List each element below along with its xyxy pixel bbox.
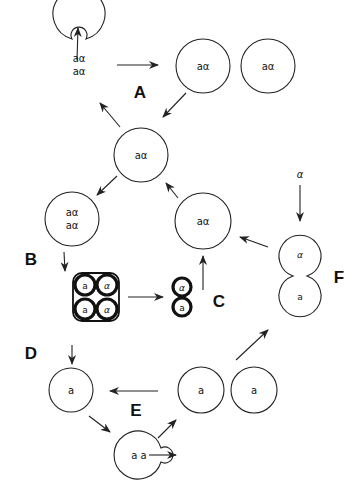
svg-text:a: a	[179, 303, 185, 313]
label-E: E	[130, 401, 141, 420]
svg-text:a: a	[198, 385, 204, 396]
svg-text:aα: aα	[262, 61, 275, 72]
diploid-premeiotic-cell: aα aα	[45, 192, 99, 246]
label-B: B	[25, 250, 37, 269]
svg-text:a: a	[297, 292, 303, 302]
svg-text:a: a	[68, 385, 74, 396]
svg-text:aα: aα	[135, 150, 148, 161]
diploid-center-cell: aα	[114, 128, 168, 182]
incoming-alpha: α	[297, 169, 304, 180]
arrow-to-mating	[236, 330, 268, 360]
label-C: C	[213, 292, 225, 311]
svg-text:a: a	[251, 385, 257, 396]
diploid-daughter-cell-1: aα	[176, 39, 230, 93]
arrow-to-premeiotic	[97, 176, 117, 195]
mating-pair: α a	[279, 235, 321, 317]
spore-pair: α a	[173, 278, 191, 316]
genotype-line1: aα	[73, 53, 86, 64]
label-D: D	[25, 344, 37, 363]
spore-4: α	[104, 305, 110, 315]
label-F: F	[334, 268, 344, 287]
haploid-daughter-1: a	[178, 367, 224, 413]
budding-diploid-cell: aα aα	[53, 0, 105, 77]
haploid-cell-left: a	[49, 368, 93, 412]
tetrad-ascus: a α a α	[73, 273, 119, 321]
arrow-to-tetrad	[64, 252, 65, 271]
yeast-life-cycle-diagram: aα aα A aα aα aα aα aα B aα a α	[0, 0, 357, 489]
cell-outline-budding	[53, 0, 105, 39]
svg-text:α: α	[179, 283, 185, 293]
svg-text:aα: aα	[66, 207, 79, 218]
budding-haploid-cell: a a	[114, 431, 176, 479]
svg-text:α: α	[297, 250, 303, 260]
svg-text:aα: aα	[197, 216, 210, 227]
arrow-to-center	[163, 93, 186, 117]
svg-text:aα: aα	[66, 220, 79, 231]
arrow-to-budding-haploid	[89, 416, 110, 432]
arrow-zygote-to-center	[166, 183, 178, 198]
diploid-daughter-cell-2: aα	[241, 39, 295, 93]
label-A: A	[134, 83, 146, 102]
spore-1: a	[82, 281, 88, 291]
arrow-to-budding	[100, 103, 120, 127]
spore-3: a	[82, 305, 88, 315]
svg-text:aα: aα	[197, 61, 210, 72]
genotype-line2: aα	[73, 66, 86, 77]
arrow-to-haploid-daughter	[158, 420, 176, 438]
haploid-daughter-2: a	[231, 367, 277, 413]
spore-2: α	[104, 281, 110, 291]
arrow-mating-to-zygote	[240, 237, 268, 247]
svg-text:a a: a a	[131, 450, 146, 461]
zygote-cell: aα	[175, 193, 231, 249]
